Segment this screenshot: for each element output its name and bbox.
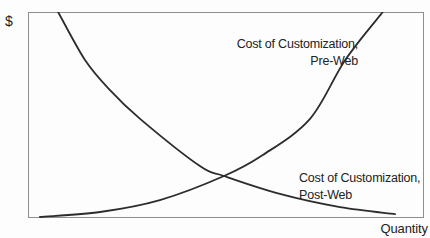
pre-web-curve-label-line2: Pre-Web <box>237 53 358 70</box>
post-web-curve-label-line2: Post-Web <box>299 187 420 204</box>
pre-web-curve-label-line1: Cost of Customization, <box>237 36 358 53</box>
pre-web-curve-label: Cost of Customization, Pre-Web <box>237 36 358 70</box>
y-axis-label: $ <box>5 13 13 29</box>
post-web-curve-label: Cost of Customization, Post-Web <box>299 170 420 204</box>
chart-figure: $ Cost of Customization, Pre-Web Cost of… <box>0 0 430 238</box>
post-web-curve-label-line1: Cost of Customization, <box>299 170 420 187</box>
x-axis-label: Quantity <box>380 221 428 236</box>
